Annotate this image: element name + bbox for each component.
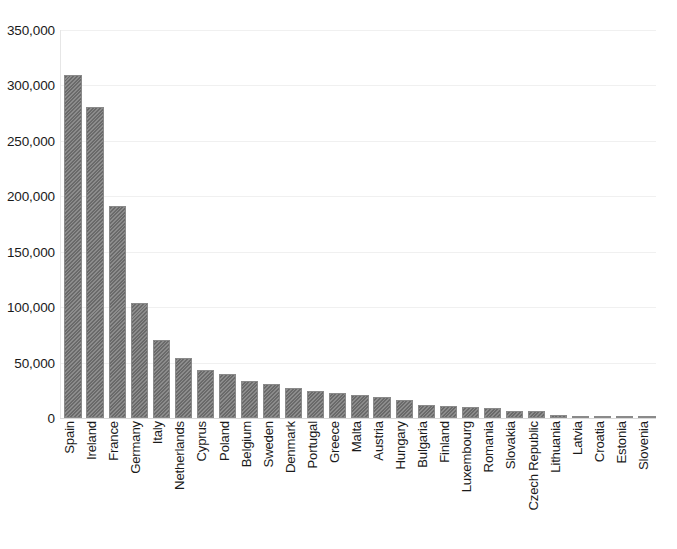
x-axis-tick-label: Austria	[371, 421, 393, 461]
bar-slot	[570, 30, 592, 418]
plot-area	[60, 30, 656, 418]
bar[interactable]	[64, 75, 81, 418]
x-axis-tick-label: Czech Republic	[526, 421, 548, 511]
y-axis-tick-label: 200,000	[7, 189, 55, 204]
bar-slot	[283, 30, 305, 418]
x-axis-tick-label: Germany	[128, 421, 150, 474]
bar-slot	[261, 30, 283, 418]
bar-slot	[194, 30, 216, 418]
x-axis-tick-label: Spain	[62, 421, 84, 454]
bar-slot	[327, 30, 349, 418]
bar[interactable]	[638, 416, 655, 418]
bar[interactable]	[109, 206, 126, 418]
bar[interactable]	[153, 340, 170, 418]
bar-slot	[62, 30, 84, 418]
bar-slot	[415, 30, 437, 418]
bar-slot	[128, 30, 150, 418]
x-axis-tick-label: Estonia	[614, 421, 636, 464]
x-axis-tick-label: Belgium	[239, 421, 261, 467]
x-axis: SpainIrelandFranceGermanyItalyNetherland…	[60, 421, 656, 547]
x-axis-tick-label: Poland	[217, 421, 239, 461]
bar[interactable]	[572, 416, 589, 418]
bar-slot	[217, 30, 239, 418]
x-axis-tick-label: Italy	[150, 421, 172, 444]
x-axis-tick-label: Lithuania	[548, 421, 570, 473]
bar-slot	[172, 30, 194, 418]
y-axis-tick-label: 0	[48, 411, 55, 426]
bar[interactable]	[484, 408, 501, 418]
x-axis-tick-label: Slovenia	[636, 421, 658, 470]
bar-slot	[636, 30, 658, 418]
x-axis-tick-label: Netherlands	[172, 421, 194, 490]
x-axis-tick-label: Malta	[349, 421, 371, 452]
bar-slot	[84, 30, 106, 418]
bar[interactable]	[462, 407, 479, 418]
bar[interactable]	[396, 400, 413, 418]
x-axis-tick-label: Denmark	[283, 421, 305, 473]
x-axis-tick-label: Croatia	[592, 421, 614, 462]
x-axis-tick-label: Ireland	[84, 421, 106, 460]
bar[interactable]	[594, 416, 611, 418]
x-axis-tick-label: France	[106, 421, 128, 461]
x-axis-tick-label: Hungary	[393, 421, 415, 469]
bar-chart: 050,000100,000150,000200,000250,000300,0…	[0, 0, 677, 549]
bar[interactable]	[307, 391, 324, 418]
x-axis-tick-label: Luxembourg	[459, 421, 481, 492]
bar-slot	[526, 30, 548, 418]
bar[interactable]	[351, 395, 368, 418]
x-axis-tick-label: Slovakia	[503, 421, 525, 469]
x-axis-tick-label: Portugal	[305, 421, 327, 469]
bar-slot	[481, 30, 503, 418]
bar-slot	[106, 30, 128, 418]
bar-slot	[393, 30, 415, 418]
x-axis-tick-label: Latvia	[570, 421, 592, 455]
x-axis-tick-label: Romania	[481, 421, 503, 472]
bar[interactable]	[418, 405, 435, 418]
bar[interactable]	[616, 416, 633, 418]
bar[interactable]	[263, 384, 280, 418]
bar-slot	[548, 30, 570, 418]
y-axis-tick-label: 50,000	[14, 355, 55, 370]
y-axis-tick-label: 300,000	[7, 78, 55, 93]
bar-slot	[305, 30, 327, 418]
bar-slot	[614, 30, 636, 418]
y-axis-tick-label: 100,000	[7, 300, 55, 315]
bar[interactable]	[241, 381, 258, 418]
y-axis-tick-label: 250,000	[7, 133, 55, 148]
bars-layer	[60, 30, 656, 418]
y-axis: 050,000100,000150,000200,000250,000300,0…	[0, 0, 58, 549]
bar[interactable]	[329, 393, 346, 418]
bar[interactable]	[197, 370, 214, 418]
bar[interactable]	[373, 397, 390, 418]
bar[interactable]	[86, 107, 103, 419]
bar-slot	[371, 30, 393, 418]
x-axis-tick-label: Cyprus	[194, 421, 216, 462]
x-axis-tick-label: Greece	[327, 421, 349, 463]
bar[interactable]	[285, 388, 302, 418]
bar[interactable]	[131, 303, 148, 418]
y-axis-tick-label: 150,000	[7, 244, 55, 259]
bar-slot	[349, 30, 371, 418]
bar[interactable]	[440, 406, 457, 418]
axis-baseline	[60, 418, 656, 419]
bar-slot	[503, 30, 525, 418]
y-axis-tick-label: 350,000	[7, 23, 55, 38]
bar[interactable]	[506, 411, 523, 418]
bar[interactable]	[219, 374, 236, 418]
bar-slot	[437, 30, 459, 418]
x-axis-tick-label: Finland	[437, 421, 459, 463]
bar[interactable]	[550, 415, 567, 418]
bar-slot	[459, 30, 481, 418]
bar-slot	[150, 30, 172, 418]
bar[interactable]	[175, 358, 192, 418]
x-axis-tick-label: Bulgaria	[415, 421, 437, 468]
x-axis-tick-label: Sweden	[261, 421, 283, 467]
bar[interactable]	[528, 411, 545, 418]
bar-slot	[239, 30, 261, 418]
bar-slot	[592, 30, 614, 418]
